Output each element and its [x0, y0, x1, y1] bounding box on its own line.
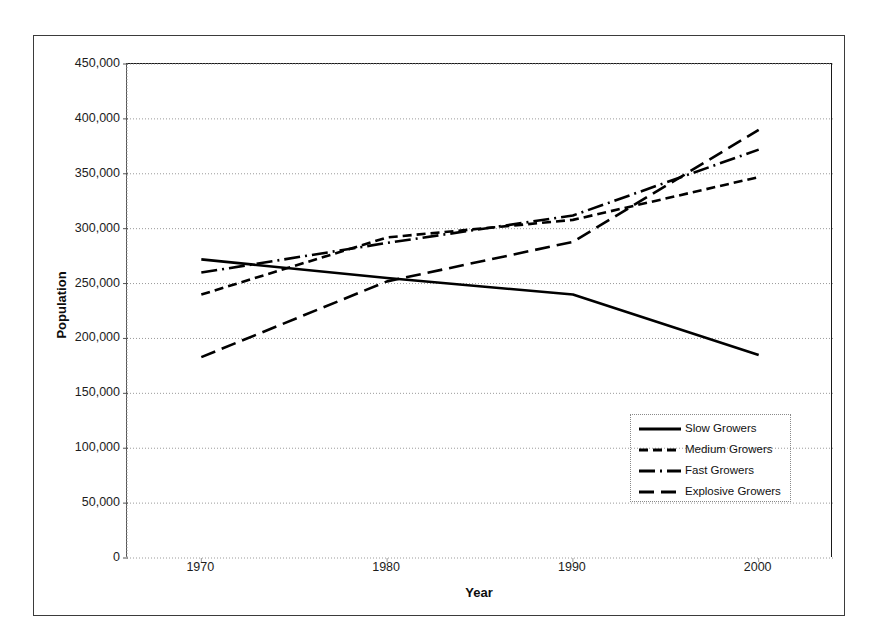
y-axis-tick-label: 300,000	[34, 222, 120, 234]
x-axis-title: Year	[126, 585, 832, 600]
legend-label: Explosive Growers	[685, 485, 781, 497]
legend-item: Fast Growers	[637, 461, 789, 481]
series-line-medium-growers	[201, 177, 758, 294]
y-axis-title: Population	[48, 240, 74, 370]
y-axis-tick-label: 150,000	[34, 386, 120, 398]
y-axis-tick-label: 200,000	[34, 331, 120, 343]
legend-label: Fast Growers	[685, 464, 754, 476]
series-line-explosive-growers	[201, 130, 758, 357]
legend-label: Slow Growers	[685, 422, 757, 434]
y-axis-tick-label: 50,000	[34, 496, 120, 508]
y-axis-tick-label: 100,000	[34, 441, 120, 453]
legend-swatch-long-dash-icon	[637, 482, 683, 502]
y-axis-tick-label: 0	[34, 551, 120, 563]
chart-figure: 050,000100,000150,000200,000250,000300,0…	[0, 0, 870, 643]
legend-item: Explosive Growers	[637, 482, 789, 502]
y-axis-tick-label: 250,000	[34, 277, 120, 289]
y-axis-title-text: Population	[54, 271, 69, 338]
y-axis-tick-label: 450,000	[34, 57, 120, 69]
x-axis-tick-label: 1980	[346, 560, 426, 574]
y-axis-tick-label: 350,000	[34, 167, 120, 179]
x-axis-tick-label: 1990	[532, 560, 612, 574]
x-axis-tick-label: 2000	[718, 560, 798, 574]
legend-item: Medium Growers	[637, 440, 789, 460]
series-line-slow-growers	[201, 259, 758, 355]
legend-item: Slow Growers	[637, 419, 789, 439]
x-axis-tick-labels: 1970198019902000	[126, 560, 832, 584]
y-axis-tick-label: 400,000	[34, 112, 120, 124]
legend-swatch-dashed-icon	[637, 440, 683, 460]
legend-label: Medium Growers	[685, 443, 773, 455]
series-line-fast-growers	[201, 150, 758, 273]
legend-swatch-solid-icon	[637, 419, 683, 439]
x-axis-tick-label: 1970	[160, 560, 240, 574]
legend-swatch-dash-dot-icon	[637, 461, 683, 481]
chart-legend: Slow GrowersMedium GrowersFast GrowersEx…	[630, 414, 791, 502]
